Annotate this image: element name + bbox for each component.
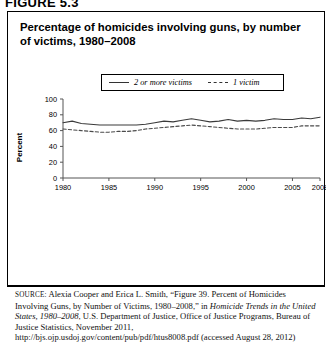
plot-area: Percent 02040608010019801985199019952000… — [8, 96, 326, 206]
legend-item-two-or-more-victims: 2 or more victims — [109, 78, 192, 87]
x-tick-label: 1985 — [101, 183, 117, 192]
legend-item-one-victim: 1 victim — [208, 78, 260, 87]
x-tick-label: 1995 — [192, 183, 208, 192]
figure-label: FIGURE 5.3 — [5, 0, 79, 10]
solid-line-swatch-icon — [109, 82, 129, 83]
x-tick-label: 2005 — [284, 183, 300, 192]
line-chart-svg: 0204060801001980198519901995200020052008 — [8, 96, 326, 206]
legend-label-two-or-more-victims: 2 or more victims — [134, 78, 192, 87]
series-line-two-or-more-victims — [63, 117, 320, 125]
series-line-one-victim — [63, 125, 320, 132]
y-tick-label: 20 — [49, 158, 57, 167]
source-divider — [7, 286, 325, 287]
x-tick-label: 2000 — [238, 183, 254, 192]
y-tick-label: 0 — [53, 174, 57, 183]
x-tick-label: 1980 — [55, 183, 71, 192]
y-tick-label: 60 — [49, 126, 57, 135]
x-tick-label: 1990 — [147, 183, 163, 192]
chart-panel: Percentage of homicides involving guns, … — [7, 11, 325, 286]
chart-title: Percentage of homicides involving guns, … — [20, 20, 308, 48]
y-axis-label: Percent — [15, 118, 24, 178]
x-tick-label: 2008 — [312, 183, 326, 192]
figure-container: FIGURE 5.3 Percentage of homicides invol… — [0, 0, 333, 362]
source-prefix: SOURCE: — [15, 291, 47, 299]
chart-legend: 2 or more victims 1 victim — [101, 74, 284, 91]
source-note: SOURCE: Alexia Cooper and Erica L. Smith… — [7, 286, 325, 360]
y-tick-label: 40 — [49, 142, 57, 151]
y-tick-label: 100 — [45, 96, 57, 104]
legend-label-one-victim: 1 victim — [233, 78, 260, 87]
dashed-line-swatch-icon — [208, 82, 228, 83]
y-tick-label: 80 — [49, 110, 57, 119]
